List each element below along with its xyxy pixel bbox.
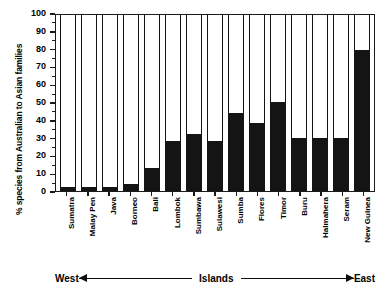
x-tick-label-slot: Sulawesi bbox=[204, 197, 225, 259]
bar-borneo bbox=[120, 15, 141, 191]
x-axis-name: Islands bbox=[192, 273, 240, 284]
y-tick-label: 100 bbox=[31, 8, 46, 19]
bar-halmahera bbox=[310, 15, 331, 191]
bar-java bbox=[99, 15, 120, 191]
direction-annotation: West Islands East bbox=[55, 268, 375, 288]
y-tick-label: 40 bbox=[36, 115, 46, 126]
x-tick-label-text: New Guinea bbox=[363, 197, 372, 259]
bar-outline bbox=[354, 15, 370, 191]
bar-outline bbox=[207, 15, 223, 191]
x-tick-label-slot: Lombok bbox=[162, 197, 183, 259]
east-arrow bbox=[241, 274, 354, 283]
x-tick-label: Seram bbox=[342, 166, 351, 228]
west-label: West bbox=[55, 273, 79, 284]
x-tick-label-slot: New Guinea bbox=[353, 197, 374, 259]
y-tick-label: 80 bbox=[36, 44, 46, 55]
x-axis-labels: SumatraMalay PenJavaBorneoBaliLombokSumb… bbox=[55, 197, 375, 259]
x-tick-label-slot: Halmahera bbox=[310, 197, 331, 259]
x-tick-label: Sumba bbox=[236, 166, 245, 228]
x-tick-label-slot: Sumbawa bbox=[183, 197, 204, 259]
bar-series bbox=[56, 15, 374, 191]
bar-lombok bbox=[162, 15, 183, 191]
bar-outline bbox=[102, 15, 118, 191]
x-tick-label-slot: Sumatra bbox=[56, 197, 77, 259]
bar-new-guinea bbox=[352, 15, 373, 191]
east-arrow-head-icon bbox=[346, 274, 354, 282]
x-tick-label-slot: Seram bbox=[332, 197, 353, 259]
y-tick-label: 30 bbox=[36, 133, 46, 144]
x-tick-label-text: Buru bbox=[300, 197, 309, 259]
y-tick-label: 0 bbox=[41, 186, 46, 197]
x-tick-label-slot: Timor bbox=[268, 197, 289, 259]
bar-flores bbox=[247, 15, 268, 191]
east-arrow-shaft bbox=[241, 278, 354, 279]
x-tick-label-slot: Sumba bbox=[226, 197, 247, 259]
bar-timor bbox=[268, 15, 289, 191]
bar-sumatra bbox=[57, 15, 78, 191]
bar-outline bbox=[291, 15, 307, 191]
x-tick-label-text: Seram bbox=[342, 197, 351, 259]
bar-outline bbox=[228, 15, 244, 191]
bar-outline bbox=[333, 15, 349, 191]
x-tick-label-text: Lombok bbox=[173, 197, 182, 259]
x-tick-label: Sulawesi bbox=[215, 166, 224, 228]
bar-outline bbox=[165, 15, 181, 191]
x-tick-label-slot: Flores bbox=[247, 197, 268, 259]
chart-figure: % species from Australian to Asian famil… bbox=[0, 0, 383, 303]
x-tick-label-text: Java bbox=[109, 197, 118, 259]
bar-sumba bbox=[226, 15, 247, 191]
x-tick-label-text: Sumbawa bbox=[194, 197, 203, 259]
x-tick-label-text: Bali bbox=[151, 197, 160, 259]
x-tick-label: New Guinea bbox=[363, 166, 372, 228]
x-tick-label: Borneo bbox=[130, 166, 139, 228]
y-axis: 0102030405060708090100 bbox=[0, 14, 55, 192]
x-tick-label: Bali bbox=[151, 166, 160, 228]
y-tick-label: 50 bbox=[36, 97, 46, 108]
x-tick-label-text: Borneo bbox=[130, 197, 139, 259]
x-tick-label-text: Malay Pen bbox=[88, 197, 97, 259]
bar-outline bbox=[123, 15, 139, 191]
bar-sulawesi bbox=[204, 15, 225, 191]
west-arrow bbox=[79, 274, 192, 283]
y-tick-label: 20 bbox=[36, 150, 46, 161]
x-tick-label: Sumbawa bbox=[194, 166, 203, 228]
x-tick-label: Buru bbox=[300, 166, 309, 228]
x-tick-label-slot: Buru bbox=[289, 197, 310, 259]
bar-outline bbox=[312, 15, 328, 191]
y-tick-label: 70 bbox=[36, 61, 46, 72]
x-tick-label: Halmahera bbox=[321, 166, 330, 228]
x-tick-label: Malay Pen bbox=[88, 166, 97, 228]
bar-outline bbox=[186, 15, 202, 191]
x-tick-label-text: Sumatra bbox=[67, 197, 76, 259]
x-tick-label-text: Halmahera bbox=[321, 197, 330, 259]
bar-bali bbox=[141, 15, 162, 191]
x-tick-label-slot: Malay Pen bbox=[77, 197, 98, 259]
east-label: East bbox=[354, 273, 375, 284]
x-tick-label-text: Timor bbox=[279, 197, 288, 259]
west-arrow-shaft bbox=[79, 278, 192, 279]
y-tick-label: 10 bbox=[36, 168, 46, 179]
x-tick-label: Lombok bbox=[173, 166, 182, 228]
bar-malay-pen bbox=[78, 15, 99, 191]
bar-outline bbox=[144, 15, 160, 191]
bar-buru bbox=[289, 15, 310, 191]
y-tick-label: 60 bbox=[36, 79, 46, 90]
x-tick-label-text: Sulawesi bbox=[215, 197, 224, 259]
y-tick-label: 90 bbox=[36, 26, 46, 37]
bar-outline bbox=[270, 15, 286, 191]
bar-seram bbox=[331, 15, 352, 191]
x-tick-label-slot: Bali bbox=[141, 197, 162, 259]
x-tick-label-text: Sumba bbox=[236, 197, 245, 259]
west-arrow-head-icon bbox=[79, 274, 87, 282]
x-tick-label-slot: Java bbox=[98, 197, 119, 259]
x-tick-label-text: Flores bbox=[257, 197, 266, 259]
x-tick-label: Java bbox=[109, 166, 118, 228]
x-tick-label-slot: Borneo bbox=[120, 197, 141, 259]
bar-outline bbox=[249, 15, 265, 191]
bar-sumbawa bbox=[183, 15, 204, 191]
bar-outline bbox=[81, 15, 97, 191]
x-tick-label: Flores bbox=[257, 166, 266, 228]
x-tick-label: Timor bbox=[279, 166, 288, 228]
x-tick-label: Sumatra bbox=[67, 166, 76, 228]
bar-outline bbox=[60, 15, 76, 191]
